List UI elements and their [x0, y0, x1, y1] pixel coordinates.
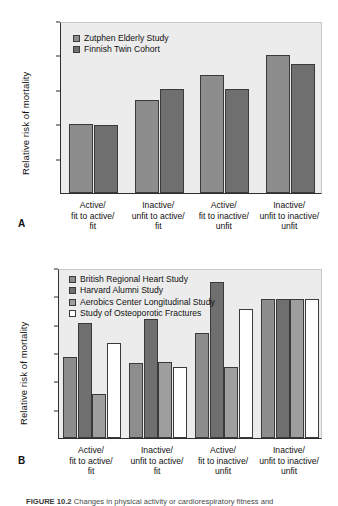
- bar: [266, 55, 290, 193]
- bar: [69, 124, 93, 193]
- bar: [200, 75, 224, 193]
- panel-b-legend: British Regional Heart StudyHarvard Alum…: [69, 274, 215, 320]
- legend-swatch: [69, 299, 76, 306]
- chart-panel-a: Relative risk of mortality 2.521.511.50 …: [0, 0, 338, 255]
- bar: [290, 299, 304, 438]
- legend-label: Study of Osteoporotic Fractures: [80, 309, 201, 318]
- panel-b-plot-area: British Regional Heart StudyHarvard Alum…: [58, 269, 322, 439]
- chart-panel-b: Relative risk of mortality 1.210.80.60.4…: [0, 255, 338, 487]
- legend-swatch: [73, 46, 80, 53]
- legend-label: Aerobics Center Longitudinal Study: [80, 298, 215, 307]
- bar: [173, 367, 187, 438]
- legend-swatch: [69, 310, 76, 317]
- figure-caption: FIGURE 10.2 Changes in physical activity…: [26, 497, 326, 506]
- legend-item: British Regional Heart Study: [69, 274, 215, 285]
- legend-item: Aerobics Center Longitudinal Study: [69, 297, 215, 308]
- bar: [107, 343, 121, 438]
- panel-a-y-axis-ticks: 2.521.511.50: [0, 0, 60, 204]
- panel-a-label: A: [18, 218, 25, 229]
- bar: [160, 89, 184, 193]
- bar: [63, 357, 77, 438]
- legend-item: Harvard Alumni Study: [69, 286, 215, 297]
- bar: [94, 125, 118, 193]
- bar: [261, 299, 275, 438]
- bar: [305, 299, 319, 438]
- panel-a-legend: Zutphen Elderly StudyFinnish Twin Cohort: [73, 33, 169, 56]
- bar: [195, 333, 209, 438]
- bar: [224, 367, 238, 438]
- bar: [239, 309, 253, 438]
- panel-a-plot-area: Zutphen Elderly StudyFinnish Twin Cohort: [60, 22, 322, 194]
- legend-swatch: [69, 276, 76, 283]
- legend-label: British Regional Heart Study: [80, 275, 188, 284]
- bar: [144, 319, 158, 438]
- figure-caption-label: FIGURE 10.2: [26, 497, 72, 506]
- legend-label: Finnish Twin Cohort: [84, 45, 160, 54]
- figure-container: Relative risk of mortality 2.521.511.50 …: [0, 0, 338, 506]
- bar: [291, 64, 315, 193]
- legend-swatch: [73, 35, 80, 42]
- legend-label: Zutphen Elderly Study: [84, 34, 169, 43]
- panel-b-label: B: [18, 455, 25, 466]
- panel-b-y-axis-ticks: 1.210.80.60.40.20: [0, 255, 58, 449]
- bar: [129, 363, 143, 438]
- bar: [92, 394, 106, 438]
- bar: [158, 362, 172, 439]
- figure-caption-text: Changes in physical activity or cardiore…: [74, 497, 274, 506]
- bar: [276, 299, 290, 438]
- legend-swatch: [69, 287, 76, 294]
- legend-item: Study of Osteoporotic Fractures: [69, 309, 215, 320]
- x-axis-category-label: Inactive/unfit to inactive/unfit: [250, 445, 328, 477]
- bar: [225, 89, 249, 193]
- x-axis-category-label: Inactive/unfit to inactive/unfit: [251, 200, 329, 232]
- legend-item: Zutphen Elderly Study: [73, 33, 169, 44]
- bar: [135, 100, 159, 193]
- legend-label: Harvard Alumni Study: [80, 286, 163, 295]
- bar: [78, 323, 92, 438]
- legend-item: Finnish Twin Cohort: [73, 45, 169, 56]
